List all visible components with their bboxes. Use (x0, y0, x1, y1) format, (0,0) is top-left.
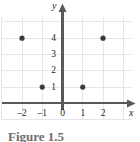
x-tick-label: 1 (73, 109, 93, 119)
x-tick-label: 0 (53, 109, 73, 119)
y-tick-label: 3 (38, 50, 56, 60)
data-point (100, 36, 105, 41)
x-axis-label: x (129, 108, 133, 118)
data-point (80, 85, 85, 90)
y-tick-label: 1 (38, 83, 56, 93)
figure-container: –2 –1 0 1 2 1 2 3 4 x y Figure 1.5 (0, 0, 140, 142)
y-tick-label: 2 (38, 66, 56, 76)
figure-caption: Figure 1.5 (0, 130, 140, 142)
x-tick-label: –2 (12, 109, 32, 119)
coordinate-plane-plot: –2 –1 0 1 2 1 2 3 4 x y (0, 0, 140, 124)
y-tick-label: 4 (38, 34, 56, 44)
figure-caption-text: Figure 1.5 (8, 130, 64, 142)
x-tick-label: –1 (32, 109, 52, 119)
plot-svg (0, 0, 140, 124)
y-axis-label: y (52, 1, 56, 11)
data-point (19, 36, 24, 41)
y-axis-arrow (59, 4, 67, 13)
grid-lines (2, 17, 132, 120)
x-tick-label: 2 (93, 109, 113, 119)
